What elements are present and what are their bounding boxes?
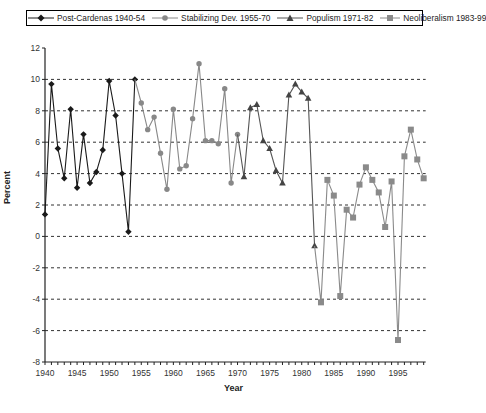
data-point (389, 178, 395, 184)
data-point (260, 137, 267, 143)
y-tick-label: -4 (32, 294, 40, 304)
legend-item-stabilizing-dev: Stabilizing Dev. 1955-70 (151, 13, 270, 23)
data-point (401, 153, 407, 159)
legend: Post-Cardenas 1940-54 Stabilizing Dev. 1… (26, 10, 423, 26)
y-tick-label: 8 (35, 106, 40, 116)
data-point (222, 86, 227, 91)
data-point (80, 131, 86, 137)
data-point (369, 177, 375, 183)
data-point (344, 207, 350, 213)
axes (45, 48, 426, 362)
data-point (164, 187, 169, 192)
y-tick-label: 10 (31, 74, 41, 84)
data-point (414, 156, 420, 162)
series-2 (238, 81, 318, 249)
x-tick-label: 1980 (292, 368, 311, 378)
data-point (209, 138, 214, 143)
data-point (171, 107, 176, 112)
data-point (196, 61, 201, 66)
data-point (132, 76, 138, 82)
x-axis-title: Year (224, 383, 243, 393)
data-point (106, 78, 112, 84)
y-tick-label: -6 (32, 326, 40, 336)
legend-item-post-cardenas: Post-Cardenas 1940-54 (27, 13, 145, 23)
y-tick-label: 12 (31, 43, 41, 53)
legend-label: Neoliberalism 1983-99 (403, 13, 486, 23)
data-point (93, 169, 99, 175)
diamond-marker-icon (27, 14, 55, 22)
y-tick-label: -2 (32, 263, 40, 273)
data-point (279, 180, 286, 186)
series-0 (42, 76, 138, 235)
y-tick-label: 4 (35, 169, 40, 179)
data-point (139, 100, 144, 105)
data-point (100, 147, 106, 153)
data-point (228, 180, 233, 185)
data-point (331, 193, 337, 199)
x-tick-label: 1990 (356, 368, 375, 378)
data-point (318, 299, 324, 305)
x-tick-label: 1995 (389, 368, 408, 378)
data-point (112, 112, 118, 118)
data-point (158, 150, 163, 155)
series-line (45, 79, 135, 231)
data-point (184, 163, 189, 168)
data-point (286, 92, 293, 98)
legend-label: Post-Cardenas 1940-54 (57, 13, 145, 23)
data-point (145, 127, 150, 132)
data-point (247, 104, 254, 110)
legend-item-neoliberalism: Neoliberalism 1983-99 (379, 13, 486, 23)
data-point (125, 228, 131, 234)
x-tick-label: 1950 (100, 368, 119, 378)
data-point (55, 145, 61, 151)
data-point (216, 141, 221, 146)
data-point (350, 215, 356, 221)
data-point (273, 167, 280, 173)
x-tick-label: 1945 (68, 368, 87, 378)
data-point (241, 173, 248, 179)
y-tick-label: 6 (35, 137, 40, 147)
data-point (254, 101, 261, 107)
data-point (292, 81, 299, 87)
series-3 (315, 127, 427, 343)
data-point (363, 164, 369, 170)
x-tick-label: 1985 (324, 368, 343, 378)
data-series (42, 61, 427, 343)
series-line (315, 130, 424, 340)
x-tick-label: 1955 (132, 368, 151, 378)
x-tick-label: 1970 (228, 368, 247, 378)
data-point (382, 224, 388, 230)
y-axis-ticks: 121086420-2-4-6-8 (31, 43, 45, 367)
circle-marker-icon (151, 14, 179, 22)
data-point (67, 106, 73, 112)
data-point (408, 127, 414, 133)
y-tick-label: -8 (32, 357, 40, 367)
y-axis-title: Percent (2, 171, 12, 204)
data-point (119, 170, 125, 176)
legend-label: Stabilizing Dev. 1955-70 (181, 13, 270, 23)
x-tick-label: 1940 (36, 368, 55, 378)
data-point (203, 138, 208, 143)
data-point (324, 177, 330, 183)
data-point (421, 175, 427, 181)
data-point (74, 185, 80, 191)
x-tick-label: 1975 (260, 368, 279, 378)
data-point (151, 114, 156, 119)
x-axis-ticks: 1940194519501955196019651970197519801985… (36, 362, 424, 378)
square-marker-icon (379, 14, 401, 22)
legend-item-populism: Populism 1971-82 (276, 13, 373, 23)
data-point (190, 116, 195, 121)
series-1 (135, 61, 240, 192)
data-point (337, 293, 343, 299)
triangle-marker-icon (276, 14, 304, 22)
data-point (376, 189, 382, 195)
y-tick-label: 0 (35, 231, 40, 241)
data-point (87, 180, 93, 186)
data-point (48, 81, 54, 87)
gridlines (45, 79, 426, 330)
x-tick-label: 1960 (164, 368, 183, 378)
series-line (135, 64, 238, 190)
data-point (395, 337, 401, 343)
data-point (356, 182, 362, 188)
